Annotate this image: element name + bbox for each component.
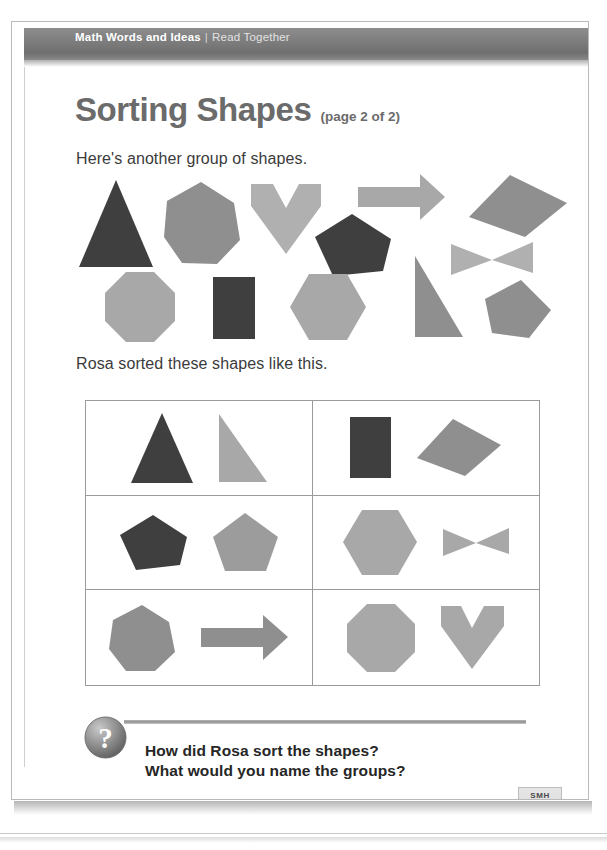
pool-shape-heptagon xyxy=(162,182,240,264)
page-drop-shadow xyxy=(14,801,592,815)
cell-shape-pentagon xyxy=(213,513,278,571)
pool-shape-pentagon-tilted xyxy=(315,214,391,276)
table-cell-hexagon-bowtie[interactable] xyxy=(313,496,540,591)
cell-shape-arrow xyxy=(201,615,288,660)
page-title-row: Sorting Shapes (page 2 of 2) xyxy=(75,91,400,129)
cell-shape-quadrilateral xyxy=(417,419,501,476)
page-number-note: (page 2 of 2) xyxy=(320,109,400,124)
pool-shape-bowtie xyxy=(451,242,533,275)
table-cell-quadrilaterals[interactable] xyxy=(313,401,540,496)
table-cell-octagon-chevron[interactable] xyxy=(313,590,540,685)
cell-shape-rectangle xyxy=(350,417,391,478)
svg-text:?: ? xyxy=(98,722,113,754)
table-cell-triangles[interactable] xyxy=(86,401,313,496)
question-line-2: What would you name the groups? xyxy=(145,761,406,781)
badge-series-label: SMH xyxy=(519,791,561,800)
header-separator: | xyxy=(201,31,212,43)
left-margin-rule xyxy=(24,67,25,767)
intro-text: Here's another group of shapes. xyxy=(76,150,307,168)
question-divider-rule xyxy=(124,720,526,724)
sorting-table xyxy=(85,400,540,686)
page-title: Sorting Shapes xyxy=(75,91,311,129)
table-cell-heptagon-arrow[interactable] xyxy=(86,590,313,685)
cell-shape-pentagon-tilted xyxy=(120,515,187,570)
header-lead-label: Math Words and Ideas xyxy=(75,31,201,43)
textbook-page: Math Words and Ideas|Read Together Sorti… xyxy=(11,21,589,800)
header-breadcrumb: Math Words and Ideas|Read Together xyxy=(75,31,290,43)
cell-shape-triangle xyxy=(131,413,193,483)
scanned-page-canvas: Math Words and Ideas|Read Together Sorti… xyxy=(0,0,607,850)
pool-shape-chevron xyxy=(251,184,321,254)
cell-shape-hexagon xyxy=(343,510,417,575)
pool-shape-quadrilateral xyxy=(469,175,567,237)
cell-shape-right-triangle xyxy=(219,414,267,482)
shape-pool xyxy=(75,172,575,337)
cell-shape-chevron xyxy=(441,606,504,669)
page-number-badge: SMH 77 xyxy=(518,787,562,800)
pool-shape-right-triangle xyxy=(415,256,463,337)
bottom-page-edge xyxy=(0,833,607,850)
question-mark-icon: ? xyxy=(84,716,127,759)
sorted-text: Rosa sorted these shapes like this. xyxy=(76,355,328,373)
pool-shape-octagon xyxy=(105,272,175,342)
pool-shape-pentagon xyxy=(485,280,551,338)
header-sub-label: Read Together xyxy=(212,31,290,43)
cell-shape-octagon xyxy=(347,604,415,672)
header-bar-shadow xyxy=(24,60,589,67)
question-text: How did Rosa sort the shapes? What would… xyxy=(145,741,406,781)
pool-shape-rectangle xyxy=(213,277,255,339)
question-line-1: How did Rosa sort the shapes? xyxy=(145,741,406,761)
cell-shape-bowtie xyxy=(443,528,509,556)
pool-shape-hexagon xyxy=(290,274,366,340)
pool-shape-triangle xyxy=(79,180,153,267)
cell-shape-heptagon xyxy=(109,605,175,671)
table-cell-pentagons[interactable] xyxy=(86,496,313,591)
